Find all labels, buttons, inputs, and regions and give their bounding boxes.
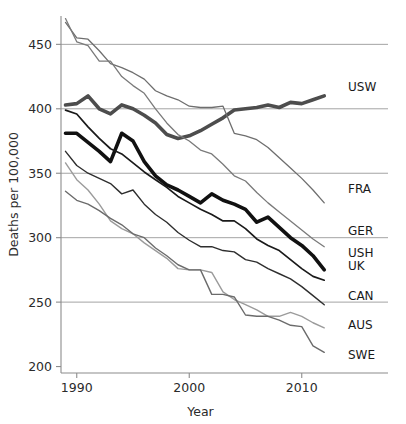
series-label-fra: FRA	[348, 182, 372, 196]
series-label-usw: USW	[348, 80, 376, 94]
y-tick-label-200: 200	[28, 359, 52, 374]
x-axis-title: Year	[186, 404, 214, 419]
x-tick-label-2010: 2010	[286, 380, 318, 395]
line-chart: 200250300350400450199020002010YearDeaths…	[0, 0, 406, 424]
series-line-ush	[66, 133, 325, 270]
x-tick-label-2000: 2000	[173, 380, 205, 395]
series-label-swe: SWE	[348, 348, 375, 362]
series-line-uk	[66, 110, 325, 280]
series-label-ger: GER	[348, 224, 373, 238]
y-tick-label-350: 350	[28, 166, 52, 181]
series-label-aus: AUS	[348, 318, 373, 332]
series-label-can: CAN	[348, 289, 374, 303]
series-line-aus	[66, 163, 325, 328]
series-line-can	[66, 151, 325, 304]
y-tick-label-250: 250	[28, 295, 52, 310]
chart-canvas: 200250300350400450199020002010YearDeaths…	[0, 0, 406, 424]
x-tick-label-1990: 1990	[61, 380, 93, 395]
series-label-uk: UK	[348, 259, 366, 273]
series-line-swe	[66, 191, 325, 352]
y-axis-title: Deaths per 100,000	[6, 132, 21, 257]
y-tick-label-300: 300	[28, 230, 52, 245]
y-tick-label-450: 450	[28, 37, 52, 52]
y-tick-label-400: 400	[28, 101, 52, 116]
series-line-usw	[66, 96, 325, 139]
